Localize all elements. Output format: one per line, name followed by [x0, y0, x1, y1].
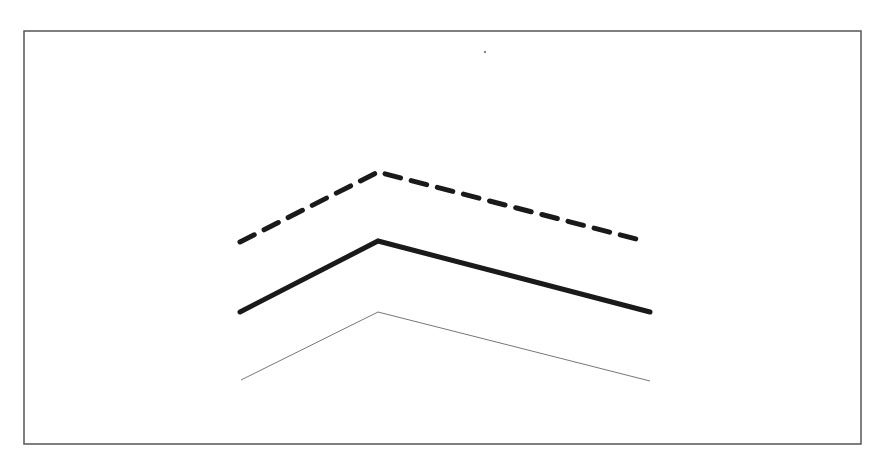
solid-thick-line: [240, 241, 650, 312]
diagram-canvas: [0, 0, 882, 467]
solid-thin-line: [241, 312, 650, 381]
diagram-frame: [24, 31, 861, 444]
dashed-thick-line: [240, 172, 640, 242]
stray-dot: [484, 51, 486, 53]
